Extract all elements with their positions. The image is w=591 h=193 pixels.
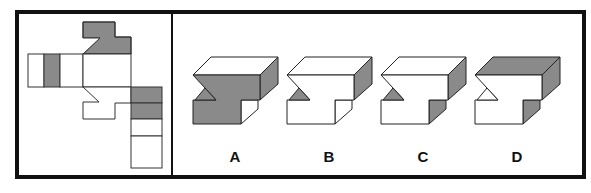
net-left-strip-3 — [60, 54, 83, 87]
net-right-col-4 — [131, 136, 162, 168]
step-face — [335, 100, 352, 124]
option-label: C — [418, 148, 429, 165]
option-b[interactable]: B — [287, 57, 372, 165]
step-face — [429, 100, 446, 124]
option-label: A — [230, 148, 241, 165]
net-left-strip-1 — [28, 54, 44, 87]
puzzle-canvas: ABCD — [0, 0, 591, 193]
step-face — [241, 100, 258, 124]
step-face — [523, 100, 540, 124]
net-right-col-1 — [131, 87, 162, 103]
option-d[interactable]: D — [475, 57, 560, 165]
option-a[interactable]: A — [193, 57, 278, 165]
option-c[interactable]: C — [381, 57, 466, 165]
option-label: B — [324, 148, 335, 165]
net-center-face — [83, 54, 131, 87]
net-right-col-2 — [131, 103, 162, 119]
net-left-strip-2 — [44, 54, 60, 87]
net-diagram — [28, 22, 162, 168]
net-right-col-3 — [131, 119, 162, 136]
net-bottom-notched-face — [83, 87, 131, 119]
option-label: D — [512, 148, 523, 165]
